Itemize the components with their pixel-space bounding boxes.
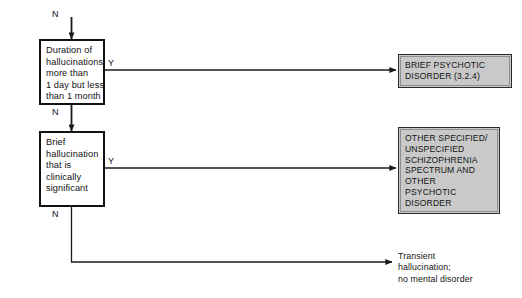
decision-duration-line-2: hallucinations: [46, 57, 103, 69]
outcome-box-brief-psychotic-disorder[interactable]: BRIEF PSYCHOTIC DISORDER (3.2.4): [398, 54, 512, 88]
terminal-line-1: Transient: [398, 251, 473, 262]
outcome-other-line-2: UNSPECIFIED: [405, 144, 499, 155]
decision-clinical-line-4: clinically: [46, 172, 103, 184]
outcome-other-line-3: SCHIZOPHRENIA: [405, 155, 499, 166]
outcome-brief-line-2: DISORDER (3.2.4): [405, 71, 511, 82]
no-edge-clinical: [72, 207, 393, 262]
outcome-other-line-1: OTHER SPECIFIED/: [405, 133, 499, 144]
label-yes-clinical: Y: [108, 156, 114, 166]
decision-duration-line-1: Duration of: [46, 45, 103, 57]
decision-duration-line-5: than 1 month: [46, 91, 103, 103]
decision-clinical-line-1: Brief: [46, 137, 103, 149]
label-no-clinical: N: [52, 209, 59, 219]
outcome-other-line-6: PSYCHOTIC: [405, 187, 499, 198]
decision-duration-line-3: more than: [46, 68, 103, 80]
decision-box-duration[interactable]: Duration of hallucinations more than 1 d…: [39, 39, 105, 105]
outcome-other-line-4: SPECTRUM AND: [405, 165, 499, 176]
decision-clinical-line-5: significant: [46, 183, 103, 195]
label-yes-duration: Y: [108, 58, 114, 68]
outcome-box-other-specified-unspecified[interactable]: OTHER SPECIFIED/ UNSPECIFIED SCHIZOPHREN…: [398, 127, 500, 214]
label-no-duration: N: [52, 107, 59, 117]
outcome-other-line-5: OTHER: [405, 176, 499, 187]
outcome-brief-line-1: BRIEF PSYCHOTIC: [405, 60, 511, 71]
entry-label-n: N: [52, 9, 59, 19]
terminal-text-transient-hallucination: Transient hallucination; no mental disor…: [398, 251, 473, 285]
flowchart-canvas: N Duration of hallucinations more than 1…: [0, 0, 522, 298]
terminal-line-3: no mental disorder: [398, 274, 473, 285]
outcome-other-line-7: DISORDER: [405, 198, 499, 209]
terminal-line-2: hallucination;: [398, 262, 473, 273]
decision-clinical-line-2: hallucination: [46, 149, 103, 161]
decision-box-clinical-significance[interactable]: Brief hallucination that is clinically s…: [39, 131, 105, 207]
decision-clinical-line-3: that is: [46, 160, 103, 172]
decision-duration-line-4: 1 day but less: [46, 80, 103, 92]
